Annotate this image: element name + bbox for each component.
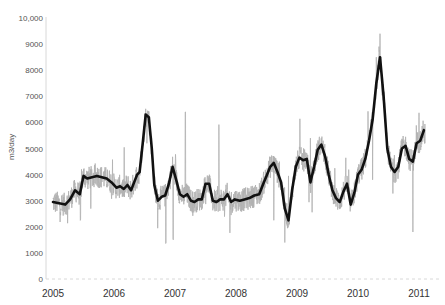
y-tick-label: 0 — [39, 275, 44, 284]
y-tick-labels: 010002000300040005000600070008000900010,… — [19, 14, 44, 284]
x-tick-label: 2010 — [347, 288, 370, 299]
y-tick-label: 2000 — [25, 223, 43, 232]
y-tick-label: 5000 — [25, 145, 43, 154]
x-tick-label: 2006 — [103, 288, 126, 299]
x-tick-label: 2005 — [42, 288, 65, 299]
flow-chart: 010002000300040005000600070008000900010,… — [0, 0, 445, 305]
y-tick-label: 3000 — [25, 197, 43, 206]
x-tick-label: 2008 — [225, 288, 248, 299]
y-tick-label: 7000 — [25, 92, 43, 101]
y-tick-label: 8000 — [25, 66, 43, 75]
y-tick-label: 9000 — [25, 40, 43, 49]
y-tick-label: 4000 — [25, 171, 43, 180]
y-tick-label: 10,000 — [19, 14, 44, 23]
y-axis-label: m3/day — [7, 134, 16, 160]
y-tick-label: 1000 — [25, 249, 43, 258]
y-tick-label: 6000 — [25, 118, 43, 127]
x-tick-label: 2007 — [164, 288, 187, 299]
x-tick-label: 2009 — [286, 288, 309, 299]
x-tick-labels: 2005200620072008200920102011 — [42, 288, 430, 299]
x-tick-label: 2011 — [408, 288, 430, 299]
